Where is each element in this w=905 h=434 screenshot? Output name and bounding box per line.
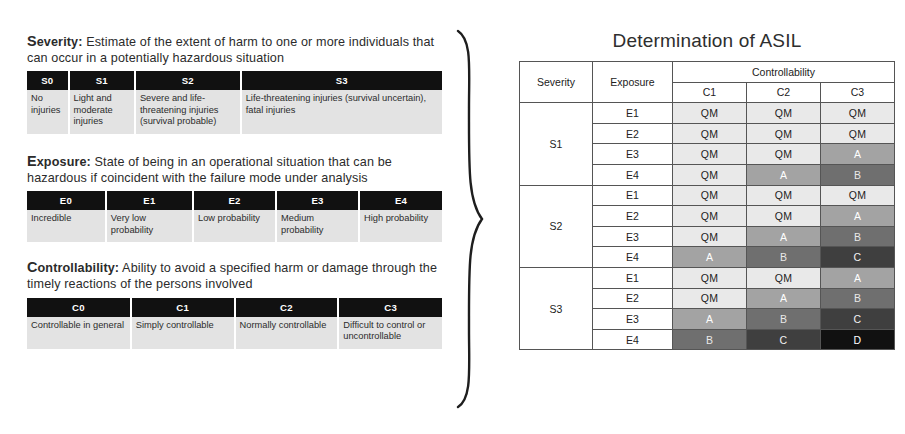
asil-cell-S1-E4-C3: B xyxy=(821,164,895,185)
definition-header-row: E0E1E2E3E4 xyxy=(27,191,442,210)
definition-cell-E0: Incredible xyxy=(27,210,106,242)
asil-table-body: S1E1QMQMQME2QMQMQME3QMQMAE4QMABS2E1QMQMQ… xyxy=(520,103,895,350)
asil-cell-S2-E3-C3: B xyxy=(821,226,895,247)
definition-term-exposure: xposure: xyxy=(37,155,91,169)
asil-table-head: Severity Exposure Controllability C1C2C3 xyxy=(520,62,895,103)
header-controllability: Controllability xyxy=(673,62,895,83)
header-exposure: Exposure xyxy=(593,62,673,103)
asil-cell-S2-E2-C2: QM xyxy=(747,206,821,227)
definition-level-header-S3: S3 xyxy=(241,71,442,90)
asil-cell-S3-E2-C2: A xyxy=(747,288,821,309)
asil-cell-S3-E2-C3: B xyxy=(821,288,895,309)
definition-level-header-E3: E3 xyxy=(276,191,359,210)
asil-cell-S1-E3-C1: QM xyxy=(673,144,747,165)
definition-cell-C3: Difficult to control or uncontrollable xyxy=(338,317,442,349)
asil-cell-S3-E3-C2: B xyxy=(747,309,821,330)
definition-term-initial-exposure: E xyxy=(27,153,37,169)
definition-term-controllability: ontrollability: xyxy=(38,261,120,275)
header-controllability-C2: C2 xyxy=(747,82,821,103)
definition-term-initial-controllability: C xyxy=(27,259,38,275)
asil-cell-S2-E4-C2: B xyxy=(747,247,821,268)
asil-determination-table: Severity Exposure Controllability C1C2C3… xyxy=(519,61,895,350)
asil-cell-S3-E2-C1: QM xyxy=(673,288,747,309)
definition-level-header-C3: C3 xyxy=(338,298,442,317)
asil-cell-S3-E4-C3: D xyxy=(821,329,895,350)
definition-cell-C2: Normally controllable xyxy=(235,317,339,349)
exposure-cell-S2-E3: E3 xyxy=(593,226,673,247)
exposure-cell-S1-E2: E2 xyxy=(593,123,673,144)
exposure-cell-S3-E1: E1 xyxy=(593,267,673,288)
definition-level-header-E0: E0 xyxy=(27,191,106,210)
definition-term-initial-severity: S xyxy=(27,33,37,49)
definition-cell-S0: No injuries xyxy=(27,90,69,134)
asil-cell-S2-E3-C1: QM xyxy=(673,226,747,247)
asil-cell-S3-E4-C1: B xyxy=(673,329,747,350)
asil-cell-S1-E3-C3: A xyxy=(821,144,895,165)
definition-level-header-C1: C1 xyxy=(131,298,235,317)
definition-level-header-S1: S1 xyxy=(69,71,135,90)
exposure-cell-S1-E4: E4 xyxy=(593,164,673,185)
asil-cell-S2-E1-C1: QM xyxy=(673,185,747,206)
definition-body-row: No injuriesLight and moderate injuriesSe… xyxy=(27,90,442,134)
asil-cell-S1-E1-C1: QM xyxy=(673,103,747,124)
definition-text-controllability: Controllability: Ability to avoid a spec… xyxy=(27,260,442,292)
exposure-cell-S1-E1: E1 xyxy=(593,103,673,124)
grouping-brace xyxy=(452,28,492,410)
asil-cell-S1-E3-C2: QM xyxy=(747,144,821,165)
asil-cell-S2-E2-C3: A xyxy=(821,206,895,227)
definition-level-header-S2: S2 xyxy=(135,71,241,90)
definition-block-controllability: Controllability: Ability to avoid a spec… xyxy=(27,260,442,348)
definition-level-header-E2: E2 xyxy=(193,191,276,210)
asil-cell-S1-E4-C2: A xyxy=(747,164,821,185)
severity-cell-S2: S2 xyxy=(520,185,593,267)
asil-reference-figure: Severity: Estimate of the extent of harm… xyxy=(0,0,905,434)
definition-body-severity: Estimate of the extent of harm to one or… xyxy=(27,35,434,65)
definition-cell-E1: Very low probability xyxy=(106,210,193,242)
exposure-cell-S3-E3: E3 xyxy=(593,309,673,330)
exposure-cell-S1-E3: E3 xyxy=(593,144,673,165)
asil-cell-S2-E2-C1: QM xyxy=(673,206,747,227)
header-controllability-C3: C3 xyxy=(821,82,895,103)
asil-cell-S2-E3-C2: A xyxy=(747,226,821,247)
table-row: S1E1QMQMQM xyxy=(520,103,895,124)
asil-cell-S2-E4-C1: A xyxy=(673,247,747,268)
definition-cell-E4: High probability xyxy=(359,210,442,242)
page-title: Determination of ASIL xyxy=(519,30,895,52)
definition-text-severity: Severity: Estimate of the extent of harm… xyxy=(27,34,442,66)
asil-cell-S2-E4-C3: C xyxy=(821,247,895,268)
definition-level-header-C0: C0 xyxy=(27,298,131,317)
asil-cell-S3-E3-C1: A xyxy=(673,309,747,330)
exposure-cell-S2-E1: E1 xyxy=(593,185,673,206)
asil-cell-S1-E2-C1: QM xyxy=(673,123,747,144)
definition-body-row: IncredibleVery low probabilityLow probab… xyxy=(27,210,442,242)
definition-text-exposure: Exposure: State of being in an operation… xyxy=(27,154,442,186)
definition-cell-E2: Low probability xyxy=(193,210,276,242)
definition-block-exposure: Exposure: State of being in an operation… xyxy=(27,154,442,242)
severity-cell-S3: S3 xyxy=(520,267,593,349)
asil-matrix-panel: Determination of ASIL Severity Exposure … xyxy=(519,30,895,350)
definition-body-row: Controllable in generalSimply controllab… xyxy=(27,317,442,349)
definition-level-header-C2: C2 xyxy=(235,298,339,317)
exposure-cell-S3-E4: E4 xyxy=(593,329,673,350)
definition-cell-S1: Light and moderate injuries xyxy=(69,90,135,134)
asil-cell-S1-E1-C2: QM xyxy=(747,103,821,124)
exposure-cell-S2-E2: E2 xyxy=(593,206,673,227)
severity-cell-S1: S1 xyxy=(520,103,593,185)
definition-level-header-E1: E1 xyxy=(106,191,193,210)
header-controllability-C1: C1 xyxy=(673,82,747,103)
definition-term-severity: everity: xyxy=(37,35,83,49)
definition-block-severity: Severity: Estimate of the extent of harm… xyxy=(27,34,442,134)
definition-level-header-E4: E4 xyxy=(359,191,442,210)
asil-cell-S1-E1-C3: QM xyxy=(821,103,895,124)
asil-cell-S2-E1-C2: QM xyxy=(747,185,821,206)
asil-header-row-1: Severity Exposure Controllability xyxy=(520,62,895,83)
definition-cell-C0: Controllable in general xyxy=(27,317,131,349)
definition-cell-S3: Life-threatening injuries (survival unce… xyxy=(241,90,442,134)
asil-cell-S1-E2-C2: QM xyxy=(747,123,821,144)
asil-cell-S1-E4-C1: QM xyxy=(673,164,747,185)
exposure-cell-S2-E4: E4 xyxy=(593,247,673,268)
asil-cell-S3-E1-C1: QM xyxy=(673,267,747,288)
definition-cell-C1: Simply controllable xyxy=(131,317,235,349)
asil-cell-S3-E3-C3: C xyxy=(821,309,895,330)
definition-table-controllability: C0C1C2C3Controllable in generalSimply co… xyxy=(27,298,442,349)
